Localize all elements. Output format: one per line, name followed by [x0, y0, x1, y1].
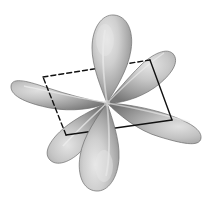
orbital-diagram-svg: [0, 0, 214, 207]
center-convergence-point: [104, 100, 110, 106]
orbital-figure-canvas: [0, 0, 214, 207]
